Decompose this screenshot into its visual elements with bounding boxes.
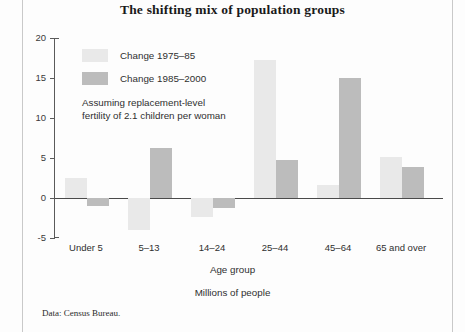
y-axis-tick: [50, 238, 55, 239]
bar: [87, 198, 109, 206]
x-axis-title: Age group: [0, 264, 465, 275]
y-axis-tick-label: 15: [20, 73, 46, 82]
x-axis-category-label: 65 and over: [356, 242, 446, 253]
bar: [339, 78, 361, 198]
bar: [213, 198, 235, 208]
bar: [128, 198, 150, 230]
bar: [65, 178, 87, 198]
legend-swatch-icon-light: [82, 49, 108, 62]
legend-item-1985-2000: Change 1985–2000: [82, 70, 282, 86]
x-axis-category-labels: Under 55–1314–2425–4445–6465 and over: [54, 242, 446, 256]
bar: [380, 157, 402, 198]
y-axis-tick-labels: 20151050-5: [20, 38, 46, 238]
y-axis-tick-label: 0: [20, 193, 46, 202]
legend-label-1975-85: Change 1975–85: [120, 50, 195, 61]
page-frame-right-rule: [452, 0, 453, 332]
chart-title: The shifting mix of population groups: [0, 2, 465, 18]
y-axis-tick-label: 20: [20, 33, 46, 42]
legend-label-1985-2000: Change 1985–2000: [120, 73, 206, 84]
source-note: Data: Census Bureau.: [42, 308, 120, 318]
annotation-line-2: fertility of 2.1 children per woman: [82, 109, 302, 122]
chart-units-subtitle: Millions of people: [0, 287, 465, 298]
legend-swatch-icon-dark: [82, 72, 108, 85]
bar: [317, 185, 339, 198]
bar: [191, 198, 213, 217]
chart-page: The shifting mix of population groups 20…: [0, 0, 465, 332]
legend-item-1975-85: Change 1975–85: [82, 47, 282, 63]
annotation-line-1: Assuming replacement-level: [82, 96, 302, 109]
y-axis-tick-label: 10: [20, 113, 46, 122]
bar: [276, 160, 298, 198]
bar: [402, 167, 424, 198]
bar: [150, 148, 172, 198]
chart-annotation: Assuming replacement-level fertility of …: [82, 96, 302, 122]
y-axis-tick-label: -5: [20, 233, 46, 242]
chart-legend: Change 1975–85 Change 1985–2000: [82, 47, 282, 93]
y-axis-tick-label: 5: [20, 153, 46, 162]
